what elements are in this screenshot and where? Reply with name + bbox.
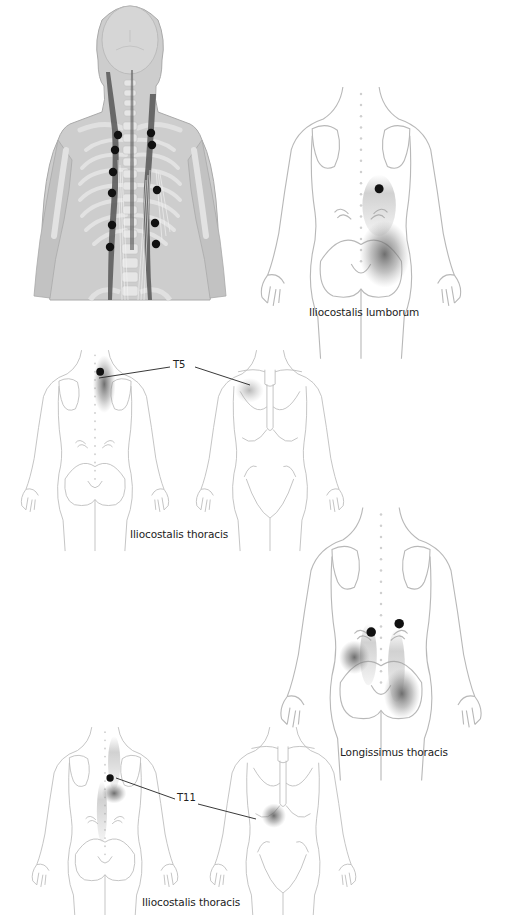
level-label-t11: T11 — [176, 792, 197, 803]
t11-leader-lines — [20, 722, 380, 915]
trigger-point — [108, 189, 116, 197]
level-label-t5: T5 — [172, 359, 186, 370]
posterior-body-outline — [276, 500, 486, 732]
caption-iliocostalis-thoracis-t11: Iliocostalis thoracis — [142, 896, 240, 908]
posterior-body-outline — [256, 80, 466, 310]
trigger-point — [114, 131, 122, 139]
trigger-point — [153, 186, 161, 194]
trigger-point — [106, 243, 114, 251]
trigger-point — [366, 627, 376, 637]
caption-iliocostalis-thoracis-t5: Iliocostalis thoracis — [130, 528, 228, 540]
referral-zone — [360, 221, 410, 288]
referral-zone — [339, 641, 370, 675]
trigger-point — [394, 619, 404, 629]
trigger-point — [109, 168, 117, 176]
trigger-point — [151, 219, 159, 227]
referral-zone — [384, 669, 420, 719]
anatomy-illustration — [30, 0, 230, 318]
trigger-point — [375, 184, 384, 193]
trigger-point — [111, 146, 119, 154]
skeleton-figure — [30, 0, 230, 318]
trigger-point — [147, 129, 155, 137]
trigger-point — [108, 221, 116, 229]
caption-iliocostalis-lumborum: Iliocostalis lumborum — [309, 306, 419, 318]
trigger-point — [148, 141, 156, 149]
trigger-point — [152, 240, 160, 248]
figure-iliocostalis-lumborum: Iliocostalis lumborum — [256, 80, 466, 320]
figure-iliocostalis-thoracis-t11: T11 Iliocostalis thoracis — [20, 722, 380, 915]
